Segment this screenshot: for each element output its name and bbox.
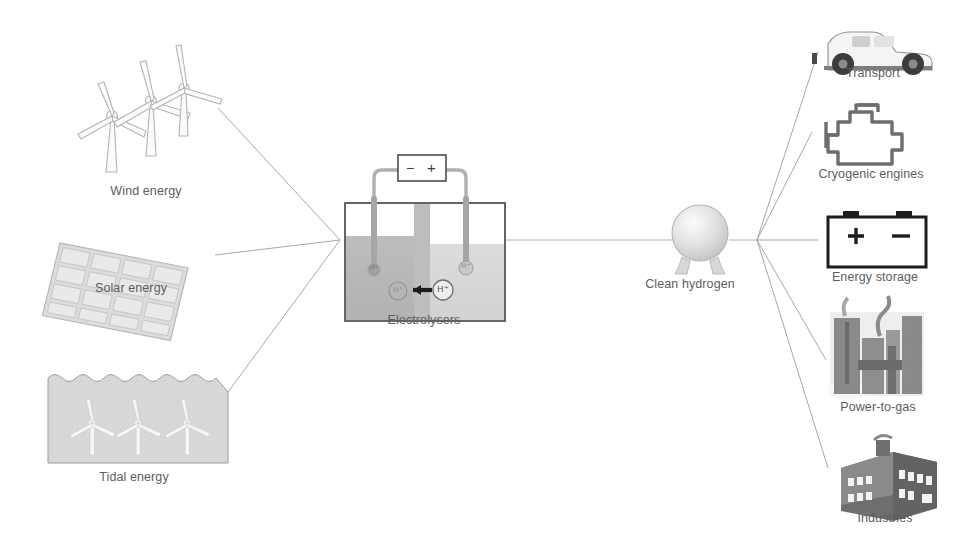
ion-label-left: H⁺ xyxy=(393,285,403,294)
tidal-turbines-icon xyxy=(48,375,228,464)
ion-label-right: H⁺ xyxy=(437,284,448,294)
line-solar-to-electrolysers xyxy=(215,240,340,255)
battery-icon xyxy=(828,211,926,267)
factory-icon xyxy=(841,435,937,521)
diagram-canvas xyxy=(0,0,967,539)
wind-turbines-icon xyxy=(78,45,222,172)
label-clean-hydrogen: Clean hydrogen xyxy=(645,277,735,291)
line-node-to-power-to-gas xyxy=(757,240,826,360)
label-cryogenic-engines: Cryogenic engines xyxy=(818,167,923,181)
connector-lines-outputs xyxy=(757,52,828,468)
chemical-plant-icon xyxy=(828,296,924,400)
line-wind-to-electrolysers xyxy=(218,108,340,240)
label-electrolysers: Electrolysers xyxy=(388,313,461,327)
connector-lines-inputs xyxy=(215,108,340,392)
label-tidal-energy: Tidal energy xyxy=(99,470,169,484)
spherical-hydrogen-tank-icon xyxy=(672,205,728,274)
ion-label-electrode-right: H⁺ xyxy=(461,262,470,270)
power-supply-positive-terminal: + xyxy=(427,159,436,176)
label-energy-storage: Energy storage xyxy=(832,270,918,284)
label-solar-energy: Solar energy xyxy=(95,281,167,295)
power-supply-negative-terminal: − xyxy=(406,160,414,176)
label-power-to-gas: Power-to-gas xyxy=(840,400,916,414)
line-tidal-to-electrolysers xyxy=(228,240,340,392)
line-node-to-industries xyxy=(757,240,828,468)
ion-label-electrode-left: H⁺ xyxy=(369,264,378,272)
electrolyser-cell-icon xyxy=(345,155,505,321)
line-node-to-cryogenic-engines xyxy=(757,132,812,240)
label-industries: Industries xyxy=(857,511,912,525)
label-transport: Transport xyxy=(846,66,900,80)
label-wind-energy: Wind energy xyxy=(110,184,181,198)
line-node-to-transport xyxy=(757,52,818,240)
engine-block-icon xyxy=(826,105,902,164)
